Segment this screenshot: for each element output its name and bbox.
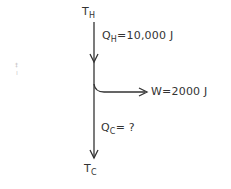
heat-in-subscript: H — [111, 35, 117, 44]
heat-out-value: = ? — [116, 121, 135, 134]
margin-mark-2: ⁞ — [16, 70, 18, 76]
margin-mark-1: ‡ — [15, 62, 18, 68]
work-label: W=2000 J — [151, 85, 207, 98]
hot-reservoir-label: TH — [82, 5, 95, 18]
heat-in-value: =10,000 J — [117, 29, 173, 42]
cold-symbol: T — [84, 162, 91, 175]
heat-in-symbol: Q — [102, 29, 111, 42]
heat-out-symbol: Q — [101, 121, 110, 134]
work-branch-line — [94, 84, 145, 92]
hot-symbol: T — [82, 5, 89, 18]
hot-subscript: H — [89, 11, 95, 20]
heat-out-label: QC= ? — [101, 121, 135, 134]
cold-subscript: C — [91, 168, 97, 177]
heat-out-subscript: C — [110, 127, 116, 136]
cold-reservoir-label: TC — [84, 162, 97, 175]
heat-in-label: QH=10,000 J — [102, 29, 173, 42]
